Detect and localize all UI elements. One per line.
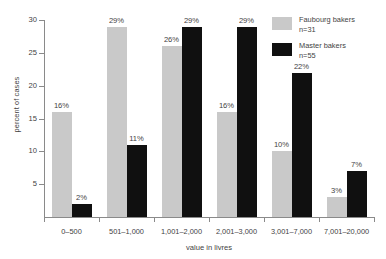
bar [217,112,237,217]
x-tick [44,217,45,222]
bar-value-label: 29% [176,16,208,25]
y-tick [39,151,45,152]
x-tick [374,217,375,222]
bar [72,204,92,217]
y-tick [39,20,45,21]
legend-series-name: Master bakers [299,41,346,50]
legend-series-name: Faubourg bakers [299,15,355,24]
bar-value-label: 2% [66,193,98,202]
legend-swatch-master-bakers [272,43,292,56]
y-tick-label: 20 [22,82,37,90]
y-tick [39,184,45,185]
x-tick [99,217,100,222]
bar-value-label: 29% [231,16,263,25]
bar-value-label: 7% [341,160,373,169]
x-tick [264,217,265,222]
y-tick [39,119,45,120]
bar-chart: percent of cases 51015202530 16%2%29%11%… [0,0,386,259]
x-tick [319,217,320,222]
legend-swatch-faubourg-bakers [272,17,292,30]
bar-value-label: 29% [101,16,133,25]
x-tick-label: 7,001–20,000 [319,227,374,236]
bar-value-label: 16% [46,101,78,110]
x-tick [154,217,155,222]
y-tick-label: 10 [22,147,37,155]
y-tick-label: 15 [22,115,37,123]
bar-value-label: 22% [286,62,318,71]
x-tick-label: 1,001–2,000 [154,227,209,236]
y-tick-label: 30 [22,16,37,24]
y-tick-label: 25 [22,49,37,57]
y-tick [39,53,45,54]
bar [237,27,257,217]
legend-label-faubourg-bakers: Faubourg bakers n=31 [299,15,355,34]
bar [182,27,202,217]
bar [107,27,127,217]
x-tick-label: 2,001–3,000 [209,227,264,236]
x-axis-title: value in livres [44,243,374,252]
bar [292,73,312,217]
legend-series-count: n=55 [299,51,346,61]
bar [272,151,292,217]
bar-value-label: 11% [121,134,153,143]
x-tick-label: 501–1,000 [99,227,154,236]
legend-series-count: n=31 [299,25,355,35]
bar [127,145,147,217]
legend-label-master-bakers: Master bakers n=55 [299,41,346,60]
bar [162,46,182,217]
x-tick-label: 0–500 [44,227,99,236]
x-tick-label: 3,001–7,000 [264,227,319,236]
bar [347,171,367,217]
x-tick [209,217,210,222]
bar [327,197,347,217]
y-tick-label: 5 [22,180,37,188]
y-axis-title: percent of cases [12,60,21,150]
y-tick [39,86,45,87]
